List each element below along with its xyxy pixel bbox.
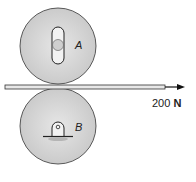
arrowhead-icon (177, 84, 185, 90)
roller-diagram (0, 0, 196, 182)
force-unit: N (173, 97, 181, 109)
strip (5, 85, 165, 89)
force-value: 200 (152, 97, 170, 109)
pin-icon (53, 40, 64, 51)
label-b: B (75, 121, 82, 133)
label-a: A (75, 39, 82, 51)
force-label: 200 N (152, 97, 181, 109)
